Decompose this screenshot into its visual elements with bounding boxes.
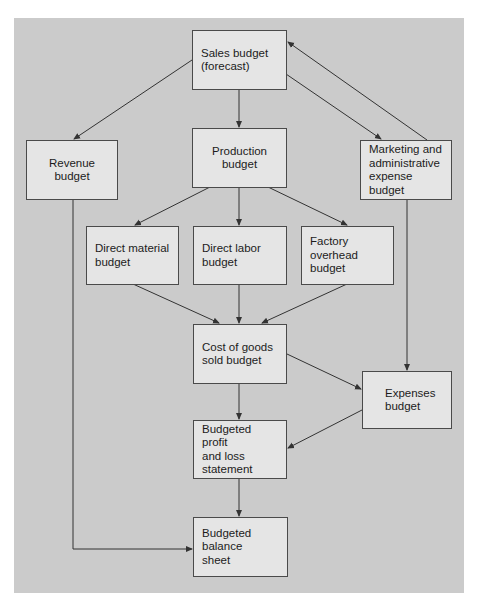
node-cogs-budget: Cost of goods sold budget <box>193 324 287 384</box>
node-marketing-admin-budget: Marketing and administrative expense bud… <box>360 140 452 200</box>
node-factory-overhead-budget: Factory overhead budget <box>301 226 394 285</box>
arrow-sales-to-revenue <box>74 60 192 139</box>
arrow-sales-to-marketing <box>286 74 381 139</box>
node-expenses-budget: Expenses budget <box>362 371 452 429</box>
arrow-production-to-factory-overhead <box>268 187 347 225</box>
node-production-budget: Production budget <box>192 128 287 188</box>
arrow-factory-overhead-to-cogs <box>262 284 347 323</box>
arrow-cogs-to-expenses <box>287 354 361 389</box>
node-direct-labor-budget: Direct labor budget <box>193 226 287 285</box>
node-sales-budget: Sales budget (forecast) <box>192 30 287 90</box>
node-balance-sheet: Budgeted balance sheet <box>193 517 288 577</box>
node-revenue-budget: Revenue budget <box>26 140 118 200</box>
arrow-expenses-to-profit-loss <box>288 410 362 448</box>
arrow-marketing-to-sales <box>288 42 427 140</box>
node-direct-material-budget: Direct material budget <box>86 226 179 285</box>
arrow-production-to-direct-material <box>135 187 210 225</box>
arrow-direct-material-to-cogs <box>133 284 219 323</box>
node-profit-loss-statement: Budgeted profit and loss statement <box>193 420 287 479</box>
